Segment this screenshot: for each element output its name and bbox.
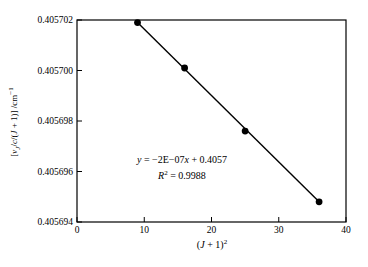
x-tick-label: 40 (341, 225, 351, 235)
x-tick-label: 30 (274, 225, 284, 235)
text-fragment: = 0.9988 (168, 170, 206, 181)
text-fragment: + 0.4057 (189, 154, 227, 165)
data-point (181, 65, 188, 72)
data-point (134, 19, 141, 26)
y-tick-label: 0.405694 (25, 217, 73, 227)
text-fragment: /( (9, 135, 19, 141)
plot-frame (77, 20, 346, 222)
text-fragment: J (9, 131, 19, 135)
text-fragment: −1 (7, 87, 15, 94)
text-fragment: + 1)] /cm (9, 95, 19, 131)
y-tick-label: 0.405702 (25, 15, 73, 25)
text-fragment: 2 (224, 238, 228, 246)
r-squared-text: R2 = 0.9988 (137, 168, 227, 184)
x-axis-title: (J + 1)2 (197, 239, 227, 250)
x-tick-label: 0 (75, 225, 80, 235)
trendline-annotation: y = −2E−07x + 0.4057 R2 = 0.9988 (137, 152, 227, 184)
y-axis-title: [νJ/c/(J + 1)] /cm−1 (9, 87, 19, 156)
text-fragment: = −2E−07 (141, 154, 184, 165)
data-point (316, 198, 323, 205)
chart-canvas: 0.4056940.4056960.4056980.4057000.405702… (0, 0, 368, 267)
y-tick-label: 0.405700 (25, 66, 73, 76)
text-fragment: c (9, 140, 19, 144)
data-point (242, 128, 249, 135)
text-fragment: [ (9, 154, 19, 157)
axis-tick-marks (77, 20, 346, 222)
text-fragment: J (14, 147, 22, 150)
x-tick-label: 20 (207, 225, 217, 235)
text-fragment: + 1) (205, 239, 224, 250)
x-tick-label: 10 (140, 225, 150, 235)
text-fragment: / (9, 144, 19, 147)
y-tick-label: 0.405698 (25, 116, 73, 126)
text-fragment: ν (9, 150, 19, 154)
y-tick-label: 0.405696 (25, 167, 73, 177)
equation-text: y = −2E−07x + 0.4057 (137, 152, 227, 168)
